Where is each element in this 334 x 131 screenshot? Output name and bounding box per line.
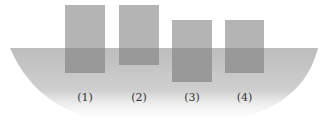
- block-label: (1): [77, 91, 93, 104]
- block-4: [225, 20, 264, 73]
- block-2: [119, 5, 159, 65]
- block-above-water: [172, 20, 212, 48]
- block-submerged: [172, 48, 212, 82]
- block-submerged: [65, 48, 105, 73]
- block-submerged: [119, 48, 159, 65]
- block-1: [65, 5, 105, 73]
- diagram-canvas: [0, 0, 334, 131]
- block-above-water: [225, 20, 264, 48]
- block-label: (4): [237, 91, 253, 104]
- water-body: [10, 48, 318, 125]
- block-3: [172, 20, 212, 82]
- floating-blocks-diagram: (1)(2)(3)(4): [0, 0, 334, 131]
- block-submerged: [225, 48, 264, 73]
- block-above-water: [65, 5, 105, 48]
- block-label: (3): [184, 91, 200, 104]
- block-above-water: [119, 5, 159, 48]
- block-label: (2): [131, 91, 147, 104]
